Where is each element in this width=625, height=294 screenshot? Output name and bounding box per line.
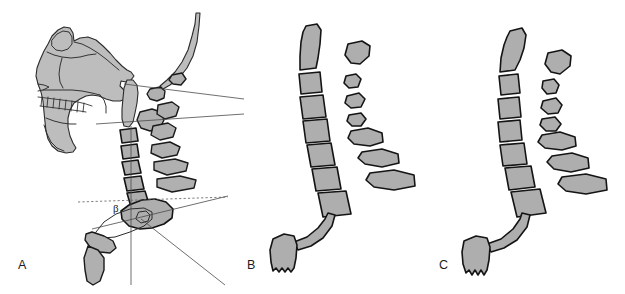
vertebra-b-c6: [307, 143, 335, 167]
spinous-process-b1: [345, 41, 370, 64]
vertebra-c-c4: [498, 97, 521, 119]
hyoid-bone-b-body: [270, 234, 297, 272]
vertebra-c-c5: [498, 120, 522, 142]
vertebra-b-c5: [303, 119, 330, 143]
tooth-8: [83, 103, 84, 112]
spinous-process-c2: [542, 79, 559, 94]
spinous-process-b3: [345, 93, 365, 108]
vertebra-c-c1c2: [500, 28, 526, 72]
spinous-process-a1: [169, 73, 186, 85]
spinous-process-b5: [348, 128, 383, 146]
spinous-process-c1: [545, 50, 571, 74]
panel-label-c: C: [439, 259, 448, 272]
vertebra-c-c3: [499, 74, 520, 95]
spinous-process-a4: [151, 142, 180, 158]
reference-line-diagonal-lower: [141, 219, 225, 285]
spinous-process-c3: [541, 98, 562, 114]
panel-c-illustration: [438, 0, 625, 294]
panel-a-illustration: β: [0, 0, 258, 294]
vertebra-b-c3: [299, 72, 322, 94]
hyoid-bone-b-horn: [294, 213, 335, 250]
spinous-process-b4: [347, 113, 366, 126]
spinous-process-a3: [151, 123, 176, 140]
hyoid-bone-body: [121, 199, 173, 229]
vertebra-c-c6: [500, 143, 527, 166]
spinous-process-b7: [366, 170, 415, 190]
spinous-process-b6: [358, 149, 399, 167]
spinous-process-a2: [157, 102, 179, 119]
spinous-process-a6: [157, 176, 196, 192]
spinous-process-c6: [547, 153, 589, 172]
spinous-process-b2: [344, 74, 361, 88]
figure-container: β: [0, 0, 625, 294]
vertebra-b-c4: [300, 95, 326, 119]
vertebra-b-c1c2: [300, 24, 321, 70]
spinous-process-a5: [154, 159, 188, 175]
reference-line-upper: [124, 84, 244, 99]
hyoid-bone-c-horn: [487, 213, 530, 252]
tooth-1: [41, 97, 42, 106]
soft-palate-column: [122, 80, 138, 127]
panel-label-a: A: [18, 259, 27, 272]
vertebra-body-c6: [124, 176, 144, 191]
vertebra-b-t1: [318, 191, 351, 217]
vertebra-b-c7: [312, 167, 341, 191]
vertebra-c-c7: [505, 166, 535, 190]
vertebra-body-c3: [120, 128, 138, 143]
vertebra-body-c5: [122, 160, 141, 175]
spinous-process-c4: [540, 117, 561, 131]
spinous-process-c5: [538, 132, 576, 150]
spinous-process-c7: [558, 174, 607, 194]
panel-b-illustration: [258, 0, 438, 294]
angle-label-beta: β: [113, 202, 119, 214]
vertebra-c-t1: [511, 189, 546, 217]
panel-label-b: B: [247, 259, 256, 272]
hyoid-bone-c-body: [462, 236, 490, 275]
vertebra-body-c4: [121, 144, 139, 159]
